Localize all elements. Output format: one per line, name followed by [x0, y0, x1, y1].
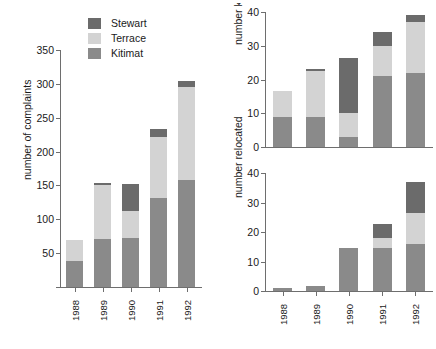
x-axis-baseline	[265, 147, 433, 148]
y-axis-spine	[265, 173, 266, 291]
bar-segment-terrace	[273, 91, 292, 116]
y-axis-tick	[261, 291, 265, 292]
bar-1988[interactable]	[273, 91, 292, 147]
chart-panel-killed: number killed 010203040	[215, 0, 436, 175]
bar-1990[interactable]	[339, 248, 358, 291]
y-axis-tick	[261, 262, 265, 263]
y-axis-tick	[56, 287, 60, 288]
y-axis-tick-label: 0	[226, 286, 259, 297]
bar-segment-stewart	[306, 69, 325, 71]
bar-segment-terrace	[94, 185, 111, 239]
bar-segment-kitimat	[273, 288, 292, 291]
x-axis-tick	[382, 292, 383, 296]
x-axis-label-1991: 1991	[378, 304, 388, 325]
y-axis-tick	[261, 80, 265, 81]
bar-segment-terrace	[178, 87, 195, 180]
x-axis-tick	[283, 292, 284, 296]
bar-segment-kitimat	[406, 73, 425, 147]
x-axis-label-1988: 1988	[71, 300, 81, 321]
bar-1991[interactable]	[373, 224, 392, 291]
x-axis-tick	[131, 288, 132, 292]
y-axis-tick-label: 100	[21, 214, 54, 225]
y-axis-title-complaints: number of complaints	[22, 80, 33, 180]
bar-segment-kitimat	[339, 137, 358, 147]
bar-1989[interactable]	[94, 183, 111, 287]
bar-segment-stewart	[178, 81, 195, 87]
y-axis-tick	[56, 185, 60, 186]
x-axis-tick	[187, 288, 188, 292]
bar-segment-terrace	[306, 71, 325, 117]
chart-panel-complaints: number of complaints 5010015020025030035…	[0, 0, 215, 349]
y-axis-tick-label: 30	[226, 198, 259, 209]
x-axis-label-1988: 1988	[279, 304, 289, 325]
y-axis-tick-label: 30	[226, 41, 259, 52]
bar-segment-kitimat	[339, 248, 358, 291]
bar-1991[interactable]	[373, 32, 392, 147]
bar-segment-kitimat	[94, 239, 111, 287]
bar-segment-terrace	[373, 238, 392, 247]
bar-segment-kitimat	[66, 261, 83, 287]
y-axis-tick-label: 300	[21, 79, 54, 90]
y-axis-tick	[56, 253, 60, 254]
y-axis-tick-label: 200	[21, 147, 54, 158]
bar-1992[interactable]	[406, 182, 425, 291]
bar-segment-stewart	[94, 183, 111, 184]
y-axis-tick-label: 40	[226, 7, 259, 18]
bar-1991[interactable]	[150, 129, 167, 287]
x-axis-label-1991: 1991	[155, 300, 165, 321]
y-axis-tick-label: 20	[226, 227, 259, 238]
x-axis-tick	[316, 292, 317, 296]
x-axis-tick	[103, 288, 104, 292]
x-axis-tick	[349, 292, 350, 296]
bar-segment-terrace	[406, 213, 425, 245]
bar-segment-terrace	[66, 240, 83, 262]
figure-canvas: Stewart Terrace Kitimat number of compla…	[0, 0, 436, 349]
y-axis-tick	[56, 50, 60, 51]
y-axis-tick-label: 150	[21, 180, 54, 191]
bar-segment-stewart	[122, 184, 139, 211]
y-axis-tick-label: 20	[226, 75, 259, 86]
bar-1988[interactable]	[66, 240, 83, 287]
bar-segment-kitimat	[406, 244, 425, 291]
bar-segment-terrace	[122, 211, 139, 238]
bar-segment-stewart	[373, 224, 392, 238]
x-axis-label-1992: 1992	[411, 304, 421, 325]
bar-segment-kitimat	[373, 76, 392, 147]
bar-segment-stewart	[150, 129, 167, 137]
x-axis-label-1989: 1989	[99, 300, 109, 321]
bar-segment-kitimat	[273, 117, 292, 147]
bar-1989[interactable]	[306, 286, 325, 291]
bar-segment-stewart	[406, 15, 425, 22]
x-axis-label-1989: 1989	[312, 304, 322, 325]
bar-segment-kitimat	[122, 238, 139, 287]
bar-1992[interactable]	[406, 15, 425, 147]
chart-panel-relocated: number relocated 010203040 1988198919901…	[215, 168, 436, 349]
bar-1990[interactable]	[122, 184, 139, 287]
top-crop-edge	[0, 0, 436, 3]
x-axis-tick	[415, 292, 416, 296]
bar-1992[interactable]	[178, 81, 195, 287]
y-axis-tick	[56, 219, 60, 220]
y-axis-title-relocated: number relocated	[233, 116, 244, 198]
bar-segment-kitimat	[178, 180, 195, 287]
x-axis-tick	[75, 288, 76, 292]
y-axis-tick	[261, 173, 265, 174]
y-axis-tick-label: 10	[226, 257, 259, 268]
y-axis-tick	[261, 113, 265, 114]
y-axis-tick	[261, 203, 265, 204]
bar-segment-terrace	[339, 113, 358, 137]
bar-segment-stewart	[339, 58, 358, 114]
y-axis-tick-label: 50	[21, 248, 54, 259]
bar-1990[interactable]	[339, 58, 358, 147]
bar-1988[interactable]	[273, 288, 292, 291]
y-axis-tick-label: 40	[226, 168, 259, 179]
bar-segment-terrace	[150, 137, 167, 197]
y-axis-tick	[261, 147, 265, 148]
y-axis-tick	[261, 232, 265, 233]
x-axis-label-1990: 1990	[345, 304, 355, 325]
y-axis-tick	[56, 118, 60, 119]
y-axis-tick	[56, 84, 60, 85]
y-axis-spine	[60, 50, 61, 287]
bar-1989[interactable]	[306, 69, 325, 147]
bar-segment-stewart	[373, 32, 392, 46]
